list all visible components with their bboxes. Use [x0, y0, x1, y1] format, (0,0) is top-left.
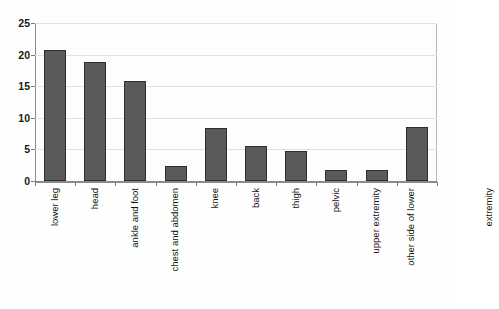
x-axis-category-label: pelvic: [331, 188, 355, 306]
x-axis-tick-mark: [316, 182, 317, 186]
x-axis-category-label-line: ankle and foot: [130, 188, 141, 248]
x-axis-category-label: head: [90, 188, 111, 306]
x-axis-category-label-line: knee: [210, 188, 221, 209]
y-axis-tick-label: 0: [24, 176, 30, 187]
bar-slot: [35, 23, 75, 181]
y-axis-tick-label: 10: [18, 113, 30, 124]
bar[interactable]: [325, 170, 347, 181]
bar-slot: [316, 23, 356, 181]
x-axis-tick-mark: [276, 182, 277, 186]
bar-slot: [196, 23, 236, 181]
bar[interactable]: [406, 127, 428, 181]
bar[interactable]: [285, 151, 307, 181]
x-axis-tick-mark: [115, 182, 116, 186]
x-axis-category-label-line: upper extremity: [371, 188, 382, 253]
bar[interactable]: [205, 128, 227, 181]
x-axis-category-label: other side of lowerextremity: [406, 188, 499, 306]
plot-wrap: 0510152025: [35, 23, 437, 181]
x-axis-category-label-line: head: [90, 188, 101, 209]
x-axis-category-label-line: pelvic: [331, 188, 342, 212]
bar-slot: [115, 23, 155, 181]
x-axis-tick-mark: [35, 182, 36, 186]
x-axis-category-label: knee: [210, 188, 231, 306]
x-axis-category-label-line: back: [251, 188, 262, 208]
bar-slot: [75, 23, 115, 181]
bar-slot: [357, 23, 397, 181]
x-axis-category-label-line: extremity: [484, 188, 495, 227]
x-axis-category-label-line: chest and abdomen: [170, 188, 181, 271]
y-axis-tick-label: 25: [18, 18, 30, 29]
bars-layer: [35, 23, 437, 181]
x-axis-category-label: back: [251, 188, 271, 306]
x-axis-tick-mark: [75, 182, 76, 186]
bar[interactable]: [165, 166, 187, 181]
x-axis-tick-mark: [236, 182, 237, 186]
x-axis-category-label-line: other side of lower: [406, 188, 417, 266]
x-axis-tick-mark: [156, 182, 157, 186]
bar-slot: [397, 23, 437, 181]
y-axis-tick-label: 5: [24, 144, 30, 155]
y-axis-tick-label: 20: [18, 49, 30, 60]
bar-slot: [276, 23, 316, 181]
x-axis-category-label: lower leg: [50, 188, 88, 306]
y-axis-tick-label: 15: [18, 81, 30, 92]
x-axis-category-label-line: lower leg: [50, 188, 61, 226]
x-axis-tick-mark: [196, 182, 197, 186]
x-axis-labels-group: lower legheadankle and footchest and abd…: [35, 188, 437, 306]
x-axis-tick-mark: [397, 182, 398, 186]
bar[interactable]: [44, 50, 66, 181]
bar-slot: [156, 23, 196, 181]
bar[interactable]: [84, 62, 106, 181]
bar[interactable]: [366, 170, 388, 181]
bar[interactable]: [124, 81, 146, 181]
x-axis-category-label: thigh: [291, 188, 312, 306]
bar-slot: [236, 23, 276, 181]
x-axis-category-label-line: thigh: [291, 188, 302, 209]
x-axis-tick-mark: [437, 182, 438, 186]
x-axis-tick-mark: [357, 182, 358, 186]
bar[interactable]: [245, 146, 267, 181]
